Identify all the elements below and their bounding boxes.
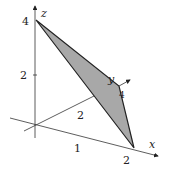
x-axis-label: x	[149, 138, 156, 151]
z-tick-label-2: 2	[20, 69, 27, 82]
x-tick-label-2: 2	[123, 154, 130, 167]
z-tick-label-4: 4	[22, 15, 29, 28]
y-axis-label: y	[107, 73, 115, 86]
x-tick-label-1: 1	[74, 142, 81, 155]
y-axis-arrow	[119, 80, 130, 86]
x-axis	[10, 118, 158, 156]
y-tick-label-2: 2	[77, 109, 84, 122]
z-axis-label: z	[40, 7, 47, 20]
diagram-canvas: z 4 2 2 y 4 1 2 x	[0, 0, 169, 172]
y-tick-label-4: 4	[119, 90, 125, 100]
